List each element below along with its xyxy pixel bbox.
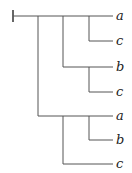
leaf-label: c: [116, 84, 124, 99]
leaf-label: c: [116, 33, 124, 48]
tree-diagram: a c b c a b c: [0, 0, 132, 173]
leaf-label: c: [116, 156, 124, 171]
leaf-label: b: [116, 132, 124, 147]
leaf-label: a: [116, 8, 124, 23]
leaf-label: a: [116, 108, 124, 123]
tree-edges: [13, 16, 113, 164]
leaf-label: b: [116, 59, 124, 74]
